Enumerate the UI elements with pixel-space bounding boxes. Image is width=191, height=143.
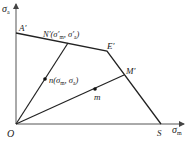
label-a-prime: A′ (18, 23, 27, 33)
label-m-prime: M′ (125, 66, 136, 76)
origin-label: O (7, 128, 14, 139)
label-n: n(σm, σa) (49, 75, 78, 86)
x-axis-label: σm (172, 124, 182, 136)
point-m (93, 87, 97, 91)
stress-diagram: σa σm O A′ N′(σ′m, σ′a) E′ M′ n(σm, σa) … (0, 0, 191, 143)
label-e-prime: E′ (106, 41, 115, 51)
label-m: m (94, 92, 101, 102)
y-axis-label: σa (2, 3, 10, 15)
label-n-prime: N′(σ′m, σ′a) (42, 29, 79, 40)
point-n (43, 77, 47, 81)
limit-line (16, 33, 161, 124)
label-s: S (157, 128, 162, 138)
